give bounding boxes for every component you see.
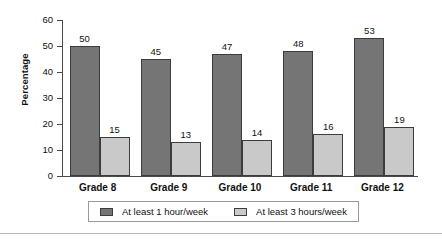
bar-series-2 [100,137,130,176]
bar-series-1 [283,51,313,176]
bar-value-label: 15 [94,124,136,135]
bar-value-label: 13 [165,129,207,140]
y-axis-tick: 30 [57,98,62,99]
category-label: Grade 12 [341,182,424,193]
bar-series-2 [384,127,414,176]
bar-series-1 [354,38,384,176]
bar-value-label: 53 [348,25,390,36]
bar-group: 5015 [70,20,130,176]
y-axis-tick-label: 60 [42,13,53,26]
bar-value-label: 48 [277,38,319,49]
legend-item[interactable]: At least 3 hours/week [234,206,347,217]
y-axis-tick: 50 [57,46,62,47]
plot-area: 0102030405060 50154513471448165319 Grade… [62,20,418,176]
y-axis-tick-label: 20 [42,117,53,130]
bar-value-label: 47 [206,41,248,52]
y-axis-tick-label: 30 [42,91,53,104]
bar-value-label: 45 [135,46,177,57]
legend-swatch-icon [100,208,113,216]
bar-group: 5319 [354,20,414,176]
y-axis-tick-label: 40 [42,65,53,78]
y-axis-tick: 20 [57,124,62,125]
bar-series-1 [141,59,171,176]
bar-series-1 [70,46,100,176]
bar-series-2 [313,134,343,176]
y-axis-title: Percentage [19,20,30,140]
y-axis-tick: 10 [57,150,62,151]
legend-label: At least 3 hours/week [256,206,347,217]
legend-label: At least 1 hour/week [122,206,208,217]
footer-divider [0,233,442,234]
y-axis-tick-label: 0 [48,169,53,182]
bar-value-label: 14 [236,127,278,138]
y-axis-tick-label: 10 [42,143,53,156]
legend-swatch-icon [234,208,247,216]
y-axis-tick: 60 [57,20,62,21]
bar-value-label: 50 [64,33,106,44]
bar-series-2 [242,140,272,176]
x-axis-line [62,176,418,177]
y-axis-tick: 40 [57,72,62,73]
bar-group: 4816 [283,20,343,176]
bar-group: 4714 [212,20,272,176]
bar-value-label: 16 [307,121,349,132]
legend-item[interactable]: At least 1 hour/week [100,206,208,217]
y-axis-tick: 0 [57,176,62,177]
bar-series-2 [171,142,201,176]
bar-group: 4513 [141,20,201,176]
y-axis-tick-label: 50 [42,39,53,52]
bar-series-1 [212,54,242,176]
chart-legend: At least 1 hour/weekAt least 3 hours/wee… [88,201,359,222]
bar-chart: Percentage 0102030405060 501545134714481… [0,0,442,242]
bar-value-label: 19 [378,114,420,125]
